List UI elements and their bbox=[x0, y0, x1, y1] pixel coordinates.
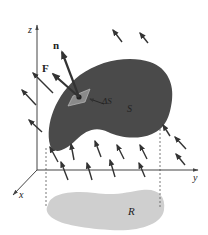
surface-label-s: S bbox=[127, 103, 132, 114]
region-r bbox=[47, 190, 165, 231]
x-axis-label: x bbox=[18, 189, 24, 200]
y-axis-label: y bbox=[192, 172, 198, 183]
x-axis bbox=[13, 170, 37, 195]
flux-diagram: z y x n F ΔS S R bbox=[0, 0, 208, 235]
field-label-f: F bbox=[42, 62, 49, 74]
z-axis-label: z bbox=[27, 24, 32, 35]
area-element-label: ΔS bbox=[101, 96, 112, 106]
region-label-r: R bbox=[127, 205, 135, 217]
normal-label-n: n bbox=[53, 39, 59, 51]
